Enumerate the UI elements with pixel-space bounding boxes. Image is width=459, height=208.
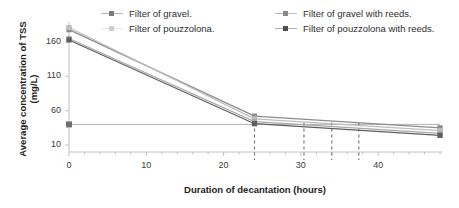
plot-area	[0, 0, 459, 208]
series-marker-3-0	[66, 37, 71, 42]
x-tick-label: 20	[209, 160, 239, 170]
y-axis-title-line1: Average concentration of TSS	[17, 9, 28, 169]
x-axis-title: Duration of decantation (hours)	[60, 184, 450, 195]
reference-line-marker	[66, 121, 72, 127]
y-tick-label: 60	[33, 105, 61, 115]
x-tick-label: 40	[363, 160, 393, 170]
plot-svg	[0, 0, 459, 208]
series-marker-1-0	[66, 25, 71, 30]
y-tick-label: 160	[33, 36, 61, 46]
chart-container: Filter of gravel. Filter of pouzzolona. …	[0, 0, 459, 208]
series-marker-3-1	[252, 121, 257, 126]
x-tick-label: 0	[54, 160, 84, 170]
series-line-0	[69, 30, 440, 128]
y-tick-label: 110	[33, 70, 61, 80]
x-tick-label: 10	[131, 160, 161, 170]
series-marker-3-2	[437, 133, 442, 138]
y-tick-label: 10	[33, 139, 61, 149]
x-tick-label: 30	[286, 160, 316, 170]
